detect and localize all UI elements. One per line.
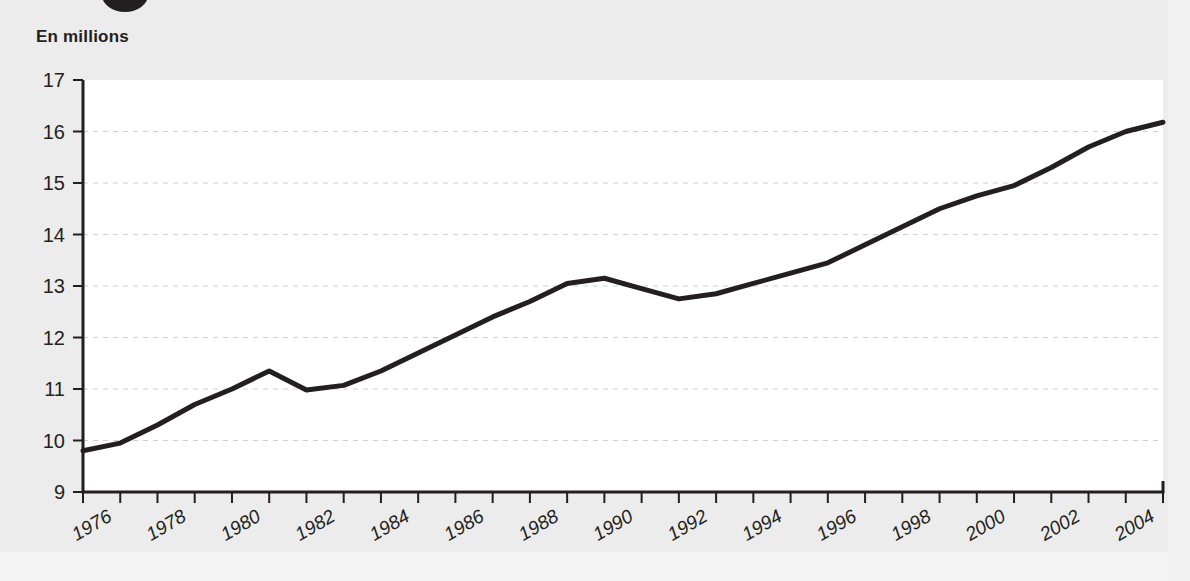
y-tick-label: 11: [44, 378, 65, 400]
x-tick-label: 1982: [291, 505, 338, 545]
x-axis-ticks: [83, 492, 1163, 503]
y-tick-label: 12: [43, 327, 65, 349]
x-tick-label: 2004: [1110, 505, 1158, 545]
x-tick-label: 1984: [366, 505, 413, 544]
y-tick-label: 15: [43, 172, 65, 194]
x-tick-label: 1994: [738, 505, 785, 544]
x-tick-label: 1980: [217, 505, 264, 545]
x-tick-label: 1992: [664, 505, 711, 545]
x-tick-label: 1978: [142, 505, 189, 545]
y-axis-labels: 17161514131211109: [43, 69, 65, 503]
y-tick-label: 16: [43, 121, 65, 143]
x-tick-label: 1998: [887, 505, 934, 545]
y-tick-label: 9: [54, 481, 65, 503]
y-tick-label: 14: [43, 224, 65, 246]
x-tick-label: 1986: [440, 505, 487, 545]
plot-area: 17161514131211109 1976197819801982198419…: [0, 60, 1190, 560]
x-tick-label: 1990: [589, 505, 636, 545]
x-tick-label: 2000: [961, 505, 1009, 545]
y-tick-label: 17: [43, 69, 65, 91]
x-tick-label: 1996: [813, 505, 860, 545]
x-tick-label: 1988: [515, 505, 562, 545]
y-tick-label: 10: [43, 430, 65, 452]
x-tick-label: 2002: [1035, 505, 1083, 545]
line-chart-svg: 17161514131211109 1976197819801982198419…: [0, 60, 1190, 560]
x-axis-labels: 1976197819801982198419861988199019921994…: [68, 505, 1158, 545]
x-tick-label: 1976: [68, 505, 115, 545]
y-tick-label: 13: [43, 275, 65, 297]
chart-unit-label: En millions: [36, 27, 129, 47]
chart-page: En millions 17161514131211109 1976197819…: [0, 0, 1190, 581]
